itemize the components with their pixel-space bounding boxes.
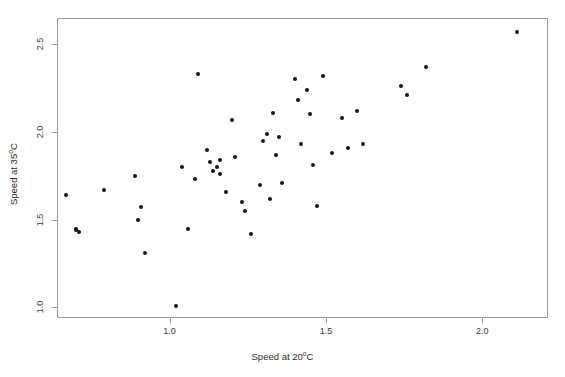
x-axis-label: Speed at 20oC <box>0 350 565 362</box>
plot-frame <box>57 18 548 318</box>
scatter-plot-figure: 1.01.52.01.01.52.02.5 Speed at 20oC Spee… <box>0 0 565 377</box>
x-axis-tick <box>170 318 171 323</box>
y-axis-tick-label: 2.5 <box>35 34 45 54</box>
y-axis-tick <box>52 220 57 221</box>
x-axis-tick-label: 1.0 <box>163 326 176 336</box>
y-axis-tick <box>52 132 57 133</box>
y-axis-tick-label: 2.0 <box>35 122 45 142</box>
x-axis-tick-label: 1.5 <box>320 326 333 336</box>
y-axis-tick <box>52 44 57 45</box>
x-axis-tick-label: 2.0 <box>476 326 489 336</box>
y-axis-tick-label: 1.5 <box>35 210 45 230</box>
y-axis-tick-label: 1.0 <box>35 297 45 317</box>
y-axis-label: Speed at 35oC <box>7 124 19 224</box>
x-axis-tick <box>482 318 483 323</box>
x-axis-tick <box>326 318 327 323</box>
y-axis-tick <box>52 307 57 308</box>
